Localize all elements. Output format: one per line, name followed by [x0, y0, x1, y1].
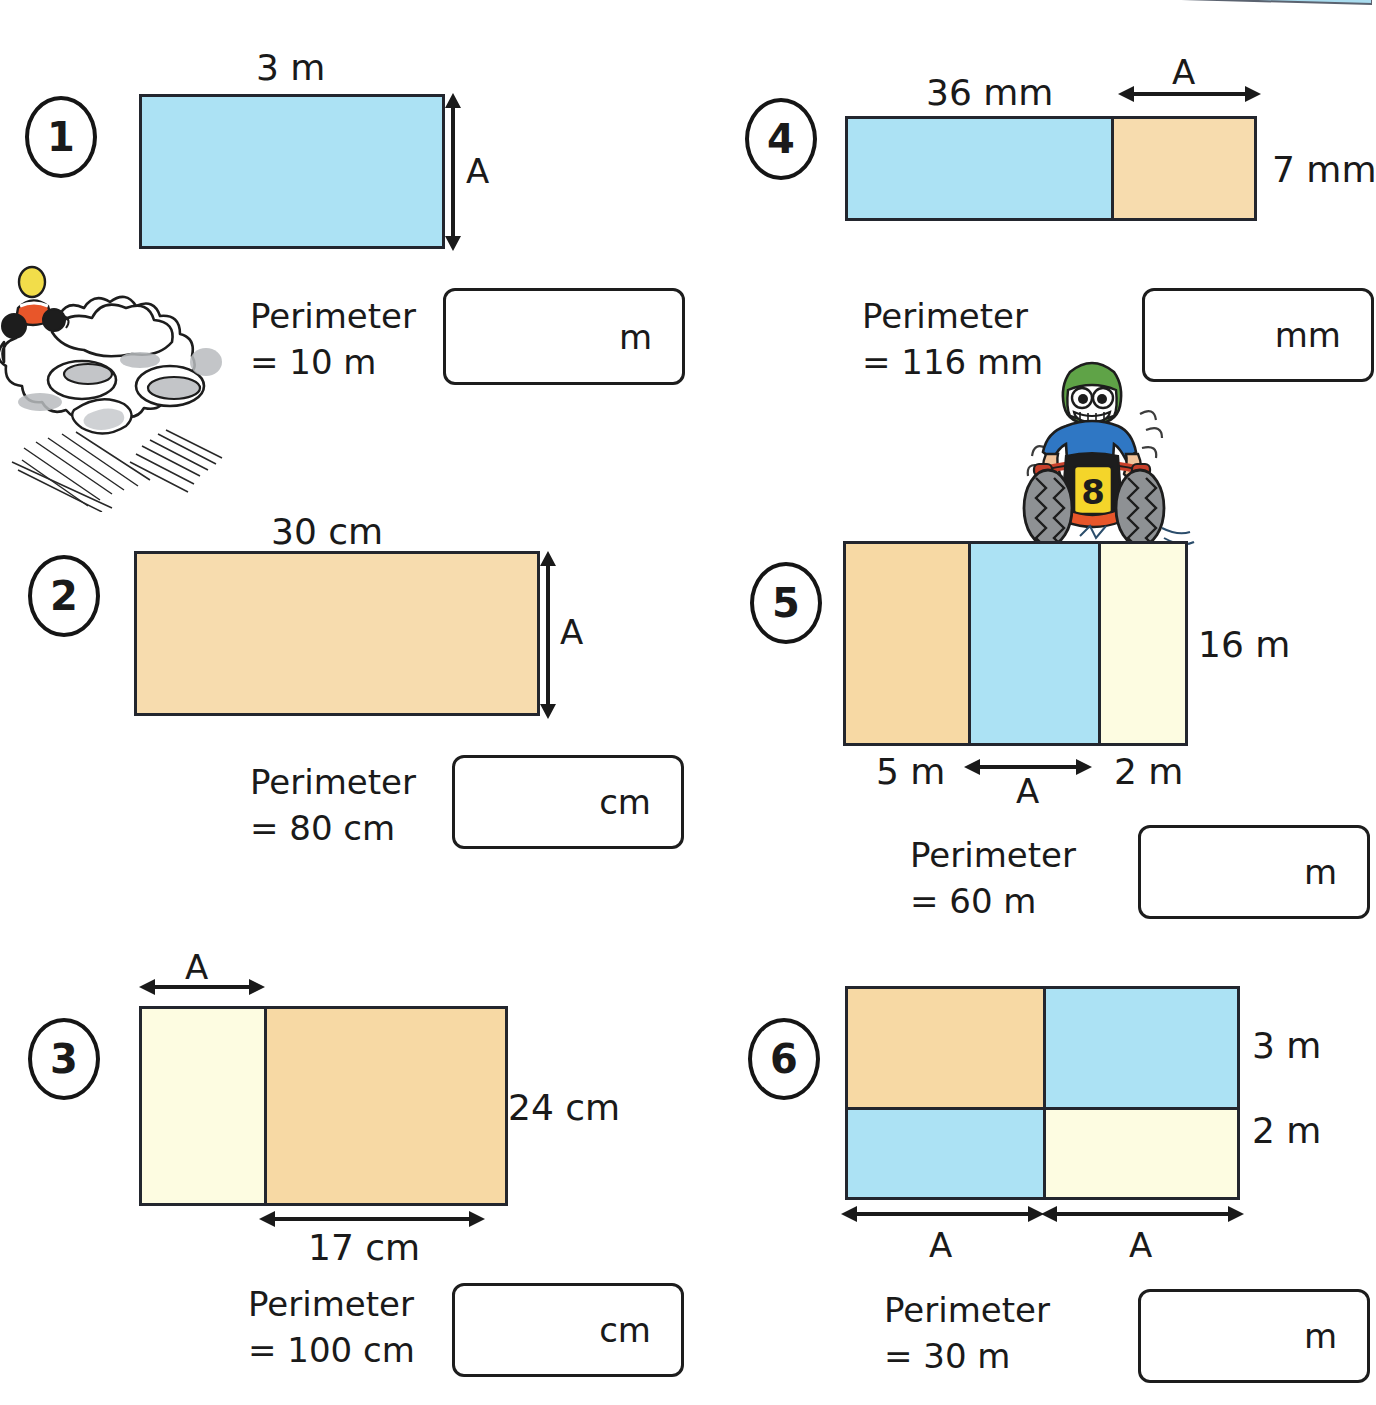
problem-5-shape — [843, 541, 1188, 746]
problem-6-side-label-1: 3 m — [1252, 1026, 1321, 1066]
problem-1-segment-1 — [142, 97, 442, 246]
problem-3-perimeter-line1: Perimeter — [248, 1282, 415, 1328]
problem-3-segment-1 — [142, 1009, 264, 1203]
problem-3-segment-2 — [264, 1009, 505, 1203]
problem-number-1: 1 — [25, 96, 97, 178]
problem-6-side-label-2: 2 m — [1252, 1111, 1321, 1151]
problem-6-cell-2-2 — [1043, 1110, 1237, 1197]
problem-6-answer-unit: m — [1304, 1316, 1367, 1356]
problem-6-cell-1-2 — [1043, 989, 1237, 1107]
problem-6-perimeter-line1: Perimeter — [884, 1288, 1050, 1334]
problem-5-side-label: 16 m — [1198, 625, 1290, 665]
problem-1-shape — [139, 94, 445, 249]
problem-5-segment-3 — [1098, 544, 1185, 743]
problem-number-6-label: 6 — [770, 1039, 798, 1079]
problem-6-answer-box[interactable]: m — [1138, 1289, 1370, 1383]
problem-6-bottom-label-2: A — [1129, 1226, 1152, 1264]
problem-1-height-arrow — [441, 92, 465, 252]
problem-number-2: 2 — [28, 555, 100, 637]
problem-number-1-label: 1 — [47, 117, 75, 157]
problem-1-answer-box[interactable]: m — [443, 288, 685, 385]
problem-3-shape — [139, 1006, 508, 1206]
problem-1-top-label: 3 m — [256, 48, 325, 88]
problem-5-bottom-label-2: A — [1016, 772, 1039, 810]
problem-5-bottom-label-3: 2 m — [1114, 752, 1183, 792]
svg-text:8: 8 — [1081, 472, 1105, 512]
problem-6-perimeter-text: Perimeter = 30 m — [884, 1288, 1050, 1380]
problem-6-cell-2-1 — [848, 1110, 1043, 1197]
problem-1-perimeter-line1: Perimeter — [250, 294, 416, 340]
problem-2-perimeter-line1: Perimeter — [250, 760, 416, 806]
problem-number-5: 5 — [750, 562, 822, 644]
problem-5-answer-unit: m — [1304, 852, 1367, 892]
problem-number-3-label: 3 — [50, 1039, 78, 1079]
problem-3-width-a-arrow — [138, 975, 266, 999]
page-top-banner — [0, 0, 1372, 12]
problem-1-side-label: A — [466, 152, 489, 190]
problem-5-segment-2 — [968, 544, 1098, 743]
problem-6-cell-1-1 — [848, 989, 1043, 1107]
problem-4-top-label: 36 mm — [926, 73, 1053, 113]
problem-6-row-1 — [848, 989, 1237, 1107]
problem-4-segment-2 — [1111, 119, 1254, 218]
problem-number-4-label: 4 — [767, 119, 795, 159]
quad-bike-rider-illustration: 8 — [1012, 352, 1212, 557]
problem-2-perimeter-line2: = 80 cm — [250, 806, 416, 852]
problem-5-perimeter-line1: Perimeter — [910, 833, 1076, 879]
problem-5-segment-1 — [846, 544, 968, 743]
problem-2-segment-1 — [137, 554, 537, 713]
problem-4-side-label: 7 mm — [1272, 150, 1376, 190]
problem-3-answer-unit: cm — [599, 1310, 681, 1350]
problem-4-perimeter-line1: Perimeter — [862, 294, 1043, 340]
problem-6-row-2 — [848, 1107, 1237, 1197]
problem-1-perimeter-text: Perimeter = 10 m — [250, 294, 416, 386]
problem-6-width-a1-arrow — [840, 1202, 1045, 1226]
problem-2-side-label: A — [560, 613, 583, 651]
problem-3-bottom-label: 17 cm — [308, 1228, 420, 1268]
problem-3-side-label: 24 cm — [508, 1088, 620, 1128]
problem-4-shape — [845, 116, 1257, 221]
problem-2-answer-unit: cm — [599, 782, 681, 822]
problem-1-answer-unit: m — [619, 317, 682, 357]
problem-4-answer-unit: mm — [1275, 315, 1371, 355]
dust-cloud-quadbike-illustration — [0, 262, 242, 512]
problem-2-answer-box[interactable]: cm — [452, 755, 684, 849]
problem-5-answer-box[interactable]: m — [1138, 825, 1370, 919]
problem-6-bottom-label-1: A — [929, 1226, 952, 1264]
problem-2-height-arrow — [536, 550, 560, 720]
problem-6-shape — [845, 986, 1240, 1200]
problem-number-4: 4 — [745, 98, 817, 180]
problem-number-2-label: 2 — [50, 576, 78, 616]
problem-2-shape — [134, 551, 540, 716]
problem-6-perimeter-line2: = 30 m — [884, 1334, 1050, 1380]
problem-4-segment-1 — [848, 119, 1111, 218]
problem-6-width-a2-arrow — [1040, 1202, 1245, 1226]
problem-2-top-label: 30 cm — [271, 512, 383, 552]
problem-4-width-a-arrow — [1117, 82, 1262, 106]
problem-number-6: 6 — [748, 1018, 820, 1100]
problem-number-5-label: 5 — [772, 583, 800, 623]
problem-3-perimeter-text: Perimeter = 100 cm — [248, 1282, 415, 1374]
problem-3-answer-box[interactable]: cm — [452, 1283, 684, 1377]
problem-5-perimeter-line2: = 60 m — [910, 879, 1076, 925]
problem-number-3: 3 — [28, 1018, 100, 1100]
problem-1-perimeter-line2: = 10 m — [250, 340, 416, 386]
problem-5-bottom-label-1: 5 m — [876, 752, 945, 792]
problem-5-perimeter-text: Perimeter = 60 m — [910, 833, 1076, 925]
problem-2-perimeter-text: Perimeter = 80 cm — [250, 760, 416, 852]
problem-3-perimeter-line2: = 100 cm — [248, 1328, 415, 1374]
